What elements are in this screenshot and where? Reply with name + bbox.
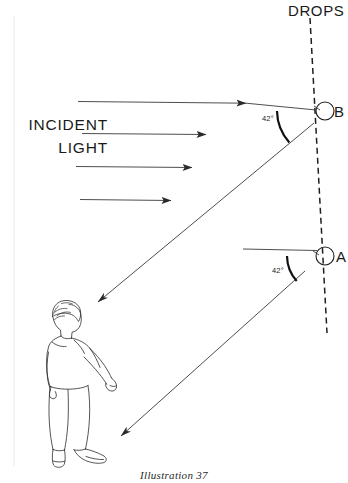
label-drops: DROPS bbox=[288, 2, 344, 19]
canvas-background bbox=[0, 0, 348, 483]
label-incident-line1: INCIDENT bbox=[28, 116, 108, 133]
figure-caption: Illustration 37 bbox=[139, 469, 208, 481]
diagram-canvas: DROPS INCIDENT LIGHT B A 42° 42° bbox=[0, 0, 348, 483]
illustration-figure: DROPS INCIDENT LIGHT B A 42° 42° bbox=[0, 0, 348, 483]
label-angle-a: 42° bbox=[272, 266, 284, 275]
label-point-a: A bbox=[336, 248, 346, 265]
label-angle-b: 42° bbox=[262, 114, 274, 123]
label-incident-line2: LIGHT bbox=[58, 139, 108, 156]
label-point-b: B bbox=[334, 103, 344, 120]
